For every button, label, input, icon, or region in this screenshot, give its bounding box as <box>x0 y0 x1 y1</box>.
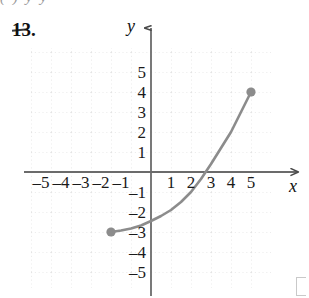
y-tick-5: 5 <box>128 63 146 83</box>
figure-page: ( ) y y 13. <box>0 0 309 298</box>
x-tick-1: 1 <box>161 173 181 193</box>
x-tick-3: 3 <box>201 173 221 193</box>
y-tick-4: 4 <box>128 83 146 103</box>
x-tick-minus-2: –2 <box>91 173 111 193</box>
endpoint-right-dot <box>246 87 255 96</box>
x-tick-2: 2 <box>181 173 201 193</box>
y-tick-minus-1: –1 <box>128 183 146 203</box>
endpoint-left-dot <box>106 227 115 236</box>
x-tick-minus-3: –3 <box>71 173 91 193</box>
graph-canvas <box>0 0 309 298</box>
x-tick-minus-4: –4 <box>51 173 71 193</box>
x-tick-5: 5 <box>241 173 261 193</box>
y-tick-2: 2 <box>128 123 146 143</box>
x-tick-minus-5: –5 <box>31 173 51 193</box>
page-edge-bracket-artifact <box>296 277 306 296</box>
y-tick-minus-4: –4 <box>128 243 146 263</box>
y-tick-minus-3: –3 <box>128 223 146 243</box>
y-axis-label: y <box>127 16 135 37</box>
x-tick-4: 4 <box>221 173 241 193</box>
y-tick-3: 3 <box>128 103 146 123</box>
y-tick-minus-2: –2 <box>128 203 146 223</box>
y-tick-minus-5: –5 <box>128 263 146 283</box>
x-axis-label: x <box>289 176 297 197</box>
y-tick-1: 1 <box>128 143 146 163</box>
